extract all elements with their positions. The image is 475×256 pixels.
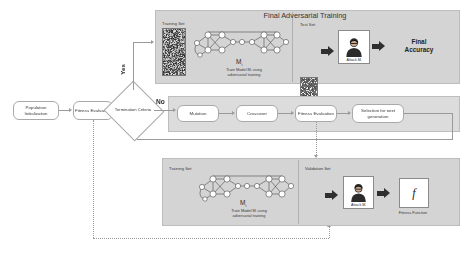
fitness-to-selection-arrowhead — [348, 111, 351, 115]
fitness-function-symbol: f — [412, 186, 415, 201]
init-to-fitness-arrowhead — [69, 108, 72, 112]
yes-branch-vertical — [133, 42, 134, 90]
bottom-panel-feedback-dotted-up — [329, 227, 330, 238]
loop-right-vertical — [452, 113, 453, 139]
final-accuracy-label: Final Accuracy — [392, 38, 446, 54]
bottom-training-set-label: Training Set — [169, 166, 191, 171]
init-to-fitness-line — [59, 110, 69, 111]
bottom-train-caption: Train Model Mᵢ using adversarial trainin… — [205, 208, 293, 219]
ga-fitness-evaluation-box[interactable]: Fitness Evaluation — [295, 105, 337, 122]
yes-label: Yes — [119, 64, 126, 75]
top-training-set-label: Training Set — [162, 21, 184, 26]
crossover-to-fitness-line — [278, 113, 291, 114]
top-model-network — [192, 26, 292, 60]
attack-to-accuracy-arrow — [372, 41, 385, 51]
bottom-attack-box: Attack Mᵢ — [343, 176, 374, 209]
fitness-feedback-dotted-horizontal — [93, 238, 329, 239]
mutation-to-crossover-line — [219, 113, 232, 114]
hacker-icon — [348, 182, 369, 203]
loop-bottom-horizontal — [133, 139, 453, 140]
top-attack-box: Attack Mᵢ — [338, 30, 370, 64]
ga-fitness-evaluation-label: Fitness Evaluation — [298, 111, 334, 117]
no-branch-arrowhead — [173, 108, 176, 112]
fitness-function-box: f — [399, 178, 429, 208]
mutation-to-crossover-arrowhead — [232, 111, 235, 115]
selection-box[interactable]: Selection for next generation — [352, 104, 404, 123]
ga-fitness-to-bottom-dotted — [316, 122, 317, 155]
test-set-label: Test Set — [300, 22, 315, 27]
yes-branch-horizontal — [133, 42, 151, 43]
bottom-attack-label: Attack Mᵢ — [351, 203, 366, 208]
no-label: No — [156, 98, 165, 105]
crossover-box[interactable]: Crossover — [236, 105, 278, 122]
bottom-model-network — [197, 170, 297, 204]
top-panel-divider — [292, 12, 293, 82]
bottom-panel-divider — [298, 160, 299, 224]
selection-out-line — [404, 113, 453, 114]
mutation-box[interactable]: Mutation — [177, 105, 219, 122]
validation-to-attack-arrow — [325, 190, 338, 200]
top-model-label: Mi — [236, 58, 242, 67]
termination-criteria-decision[interactable]: Termination Criteria — [112, 90, 154, 130]
top-panel-title: Final Adversarial Training — [205, 11, 405, 20]
top-train-caption: Train Model Mᵢ using adversarial trainin… — [200, 67, 288, 78]
yes-branch-arrowhead — [151, 40, 154, 44]
crossover-to-fitness-arrowhead — [291, 111, 294, 115]
test-to-attack-arrow — [321, 46, 334, 56]
bottom-model-label: Mi — [240, 199, 246, 208]
top-training-set-image — [162, 28, 186, 76]
validation-set-label: Validation Set — [305, 166, 331, 171]
fitness-function-caption: Fitness Function — [392, 210, 434, 215]
hacker-icon — [343, 36, 365, 58]
top-attack-label: Attack Mᵢ — [347, 58, 362, 63]
termination-criteria-label: Termination Criteria — [115, 107, 151, 112]
population-initialization-box[interactable]: Population Initialization — [13, 101, 59, 120]
fitness-to-selection-line — [337, 113, 348, 114]
attack-to-fitness-arrow — [377, 188, 390, 198]
fitness-feedback-dotted-vertical — [93, 120, 94, 238]
no-branch-line — [154, 110, 173, 111]
diagram-canvas: Final Adversarial Training Training Set — [0, 0, 475, 256]
